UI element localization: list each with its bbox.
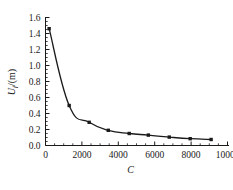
y-tick-label: 0.4 — [29, 109, 41, 119]
y-axis-title-text: Uf/(m) — [6, 69, 19, 95]
x-tick-label: 8000 — [182, 150, 201, 160]
x-axis-title: C — [127, 164, 134, 175]
chart-figure: 0.00.20.40.60.81.01.21.41.60200040006000… — [0, 0, 233, 190]
y-tick-label: 1.4 — [29, 29, 41, 39]
x-tick-label: 4000 — [109, 150, 128, 160]
y-tick-label: 0.6 — [29, 93, 41, 103]
data-point-marker — [47, 27, 50, 30]
data-point-marker — [209, 138, 212, 141]
data-point-marker — [107, 129, 110, 132]
data-point-marker — [87, 121, 90, 124]
series-line-uf — [49, 29, 211, 140]
x-tick-label: 6000 — [145, 150, 164, 160]
data-point-marker — [67, 104, 70, 107]
y-tick-label: 0.8 — [29, 77, 41, 87]
y-tick-label: 0.0 — [29, 141, 41, 151]
data-point-marker — [128, 132, 131, 135]
data-point-marker — [168, 135, 171, 138]
y-axis-title-unit: /(m) — [6, 69, 18, 86]
y-tick-label: 1.2 — [29, 45, 41, 55]
y-tick-label: 1.6 — [29, 13, 41, 23]
x-tick-label: 0 — [43, 150, 48, 160]
chart-canvas: 0.00.20.40.60.81.01.21.41.60200040006000… — [0, 0, 233, 190]
data-point-marker — [188, 137, 191, 140]
y-tick-label: 1.0 — [29, 61, 41, 71]
data-point-marker — [147, 133, 150, 136]
y-axis-title: Uf/(m) — [6, 69, 19, 95]
x-tick-label: 2000 — [72, 150, 91, 160]
x-tick-label: 10000 — [216, 150, 233, 160]
y-tick-label: 0.2 — [29, 125, 41, 135]
